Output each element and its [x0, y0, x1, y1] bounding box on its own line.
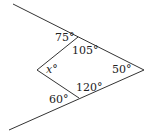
angle-label-60: 60°	[49, 94, 69, 105]
angle-label-120: 120°	[76, 82, 103, 93]
upper-ray	[13, 4, 144, 70]
angle-label-50: 50°	[112, 64, 132, 75]
angle-label-105: 105°	[72, 45, 99, 56]
geometry-diagram: 75° 105° x° 50° 120° 60°	[0, 0, 150, 136]
degree-symbol: °	[52, 63, 58, 76]
lower-ray	[9, 70, 144, 130]
angle-label-x: x°	[46, 64, 58, 75]
angle-label-75: 75°	[55, 32, 75, 43]
